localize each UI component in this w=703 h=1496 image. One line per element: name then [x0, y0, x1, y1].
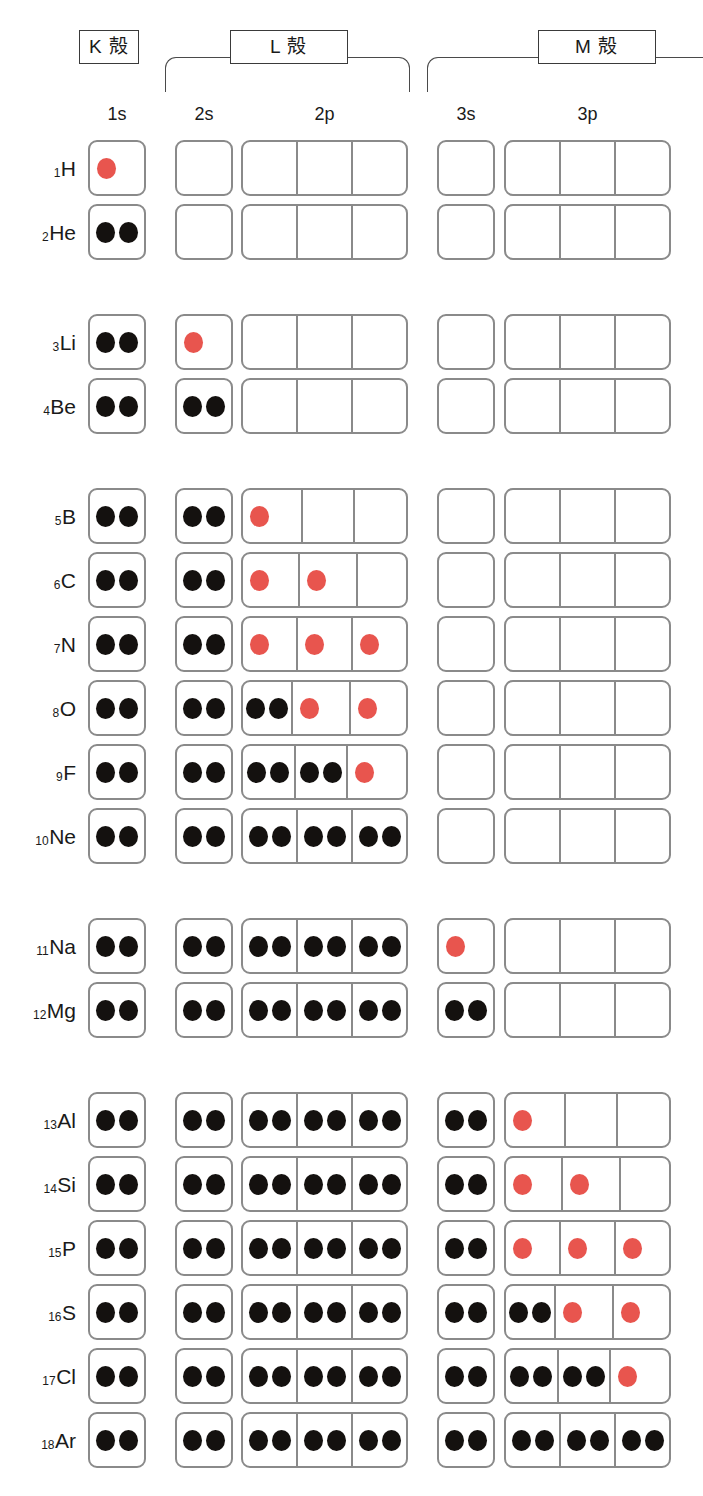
orbital-group-3p[interactable] [504, 744, 671, 800]
orbital-group-2p[interactable] [241, 744, 408, 800]
orbital-cell-1s-1[interactable] [90, 142, 144, 194]
orbital-group-3p[interactable] [504, 1284, 671, 1340]
orbital-cell-2p-1[interactable] [243, 810, 296, 862]
orbital-group-3s[interactable] [437, 1348, 495, 1404]
orbital-cell-2p-1[interactable] [243, 142, 296, 194]
orbital-group-3s[interactable] [437, 1412, 495, 1468]
orbital-cell-3p-3[interactable] [614, 316, 669, 368]
orbital-group-3s[interactable] [437, 378, 495, 434]
orbital-group-1s[interactable] [88, 1220, 146, 1276]
orbital-group-1s[interactable] [88, 744, 146, 800]
orbital-cell-2p-1[interactable] [243, 1350, 296, 1402]
orbital-cell-3p-3[interactable] [614, 984, 669, 1036]
orbital-group-3p[interactable] [504, 488, 671, 544]
orbital-cell-3p-1[interactable] [506, 1350, 557, 1402]
orbital-group-1s[interactable] [88, 378, 146, 434]
orbital-cell-3p-3[interactable] [614, 142, 669, 194]
orbital-group-1s[interactable] [88, 552, 146, 608]
orbital-cell-2s-1[interactable] [177, 810, 231, 862]
orbital-cell-3p-3[interactable] [614, 490, 669, 542]
orbital-cell-2p-2[interactable] [298, 554, 355, 606]
orbital-cell-3p-2[interactable] [559, 746, 614, 798]
orbital-cell-2p-1[interactable] [243, 1414, 296, 1466]
orbital-cell-3p-1[interactable] [506, 810, 559, 862]
orbital-cell-1s-1[interactable] [90, 1286, 144, 1338]
orbital-group-3s[interactable] [437, 616, 495, 672]
orbital-cell-3s-1[interactable] [439, 380, 493, 432]
orbital-cell-2p-3[interactable] [351, 206, 406, 258]
orbital-cell-2p-1[interactable] [243, 490, 301, 542]
orbital-cell-2p-2[interactable] [296, 810, 351, 862]
orbital-group-3p[interactable] [504, 918, 671, 974]
orbital-cell-3s-1[interactable] [439, 1222, 493, 1274]
orbital-group-3s[interactable] [437, 744, 495, 800]
orbital-cell-3p-3[interactable] [614, 810, 669, 862]
orbital-group-3s[interactable] [437, 680, 495, 736]
orbital-cell-3p-1[interactable] [506, 142, 559, 194]
orbital-cell-3p-2[interactable] [559, 618, 614, 670]
orbital-group-3p[interactable] [504, 808, 671, 864]
orbital-cell-1s-1[interactable] [90, 746, 144, 798]
orbital-group-2p[interactable] [241, 1284, 408, 1340]
orbital-cell-2s-1[interactable] [177, 1350, 231, 1402]
orbital-cell-2s-1[interactable] [177, 490, 231, 542]
orbital-group-2s[interactable] [175, 616, 233, 672]
orbital-cell-2s-1[interactable] [177, 554, 231, 606]
orbital-cell-3p-3[interactable] [614, 920, 669, 972]
orbital-cell-3p-1[interactable] [506, 554, 559, 606]
orbital-cell-2p-3[interactable] [351, 1414, 406, 1466]
orbital-cell-2s-1[interactable] [177, 618, 231, 670]
orbital-group-3p[interactable] [504, 680, 671, 736]
orbital-cell-3p-3[interactable] [614, 746, 669, 798]
orbital-cell-2p-1[interactable] [243, 1158, 296, 1210]
orbital-group-2s[interactable] [175, 378, 233, 434]
orbital-group-2s[interactable] [175, 680, 233, 736]
orbital-cell-2s-1[interactable] [177, 316, 231, 368]
orbital-cell-3p-2[interactable] [559, 490, 614, 542]
orbital-cell-3p-3[interactable] [614, 380, 669, 432]
orbital-cell-2p-3[interactable] [351, 1158, 406, 1210]
orbital-cell-2p-3[interactable] [351, 142, 406, 194]
orbital-cell-3p-2[interactable] [559, 1222, 614, 1274]
orbital-cell-3p-1[interactable] [506, 1094, 564, 1146]
orbital-cell-1s-1[interactable] [90, 984, 144, 1036]
orbital-cell-2p-2[interactable] [296, 984, 351, 1036]
orbital-cell-3s-1[interactable] [439, 1350, 493, 1402]
orbital-cell-2s-1[interactable] [177, 920, 231, 972]
orbital-group-2p[interactable] [241, 314, 408, 370]
orbital-cell-2p-1[interactable] [243, 682, 291, 734]
orbital-cell-2p-3[interactable] [351, 618, 406, 670]
orbital-cell-3p-1[interactable] [506, 1158, 561, 1210]
orbital-group-2p[interactable] [241, 552, 408, 608]
orbital-group-2s[interactable] [175, 204, 233, 260]
orbital-group-1s[interactable] [88, 918, 146, 974]
orbital-cell-3p-2[interactable] [559, 380, 614, 432]
orbital-cell-2p-3[interactable] [349, 682, 406, 734]
orbital-group-1s[interactable] [88, 1412, 146, 1468]
orbital-cell-2p-2[interactable] [296, 380, 351, 432]
orbital-cell-2s-1[interactable] [177, 206, 231, 258]
orbital-cell-3p-2[interactable] [559, 316, 614, 368]
orbital-cell-3s-1[interactable] [439, 206, 493, 258]
orbital-cell-2p-1[interactable] [243, 554, 298, 606]
orbital-cell-2p-2[interactable] [301, 490, 354, 542]
orbital-cell-3p-1[interactable] [506, 316, 559, 368]
orbital-group-2s[interactable] [175, 1092, 233, 1148]
orbital-group-3s[interactable] [437, 1092, 495, 1148]
orbital-cell-1s-1[interactable] [90, 618, 144, 670]
orbital-cell-1s-1[interactable] [90, 1094, 144, 1146]
orbital-cell-2p-1[interactable] [243, 618, 296, 670]
orbital-cell-2p-2[interactable] [296, 1158, 351, 1210]
orbital-group-3p[interactable] [504, 1156, 671, 1212]
orbital-cell-1s-1[interactable] [90, 490, 144, 542]
orbital-group-3p[interactable] [504, 552, 671, 608]
orbital-cell-3p-1[interactable] [506, 490, 559, 542]
orbital-group-1s[interactable] [88, 616, 146, 672]
orbital-group-3p[interactable] [504, 1348, 671, 1404]
orbital-cell-2s-1[interactable] [177, 1286, 231, 1338]
orbital-cell-1s-1[interactable] [90, 554, 144, 606]
orbital-cell-3s-1[interactable] [439, 316, 493, 368]
orbital-cell-3p-2[interactable] [559, 682, 614, 734]
orbital-cell-2p-3[interactable] [351, 1286, 406, 1338]
orbital-cell-2p-2[interactable] [296, 316, 351, 368]
